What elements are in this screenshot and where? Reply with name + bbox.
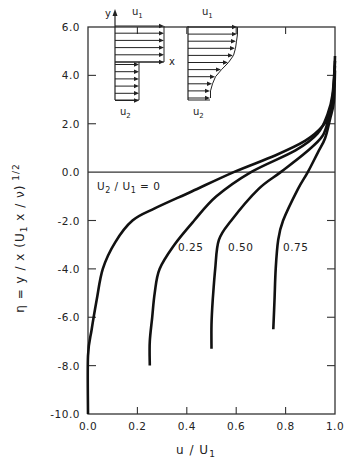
x-tick-label: 0.4: [178, 420, 196, 432]
y-axis-label: η = y / x (U1 x / ν) 1/2: [11, 163, 29, 313]
inset1-upper-arrow: [115, 45, 164, 49]
inset1-upper-arrow: [115, 38, 164, 42]
y-tick-label: -2.0: [58, 215, 81, 227]
inset-mixed-profile: u1 u2: [188, 6, 238, 120]
legend-end: = 0: [136, 180, 160, 192]
inset1-u2-label: u2: [120, 106, 131, 120]
arrowhead-icon: [159, 45, 164, 49]
curve-u2-u1-0.25: [150, 61, 335, 366]
inset2-arrow: [188, 75, 215, 79]
arrowhead-icon: [159, 38, 164, 42]
curve-label-0.75: 0.75: [283, 241, 308, 253]
plot-border: [88, 27, 335, 414]
curve-label-0.50: 0.50: [228, 241, 253, 253]
curve-label-0.25: 0.25: [178, 241, 203, 253]
plot-frame: [88, 27, 335, 414]
inset-step-profile: y u1 x u2: [105, 6, 175, 120]
inset2-arrow: [188, 67, 221, 71]
y-tick-label: -10.0: [50, 408, 80, 420]
y-axis-label-sup: 1/2: [11, 163, 21, 184]
inset1-u2-sub: 2: [126, 112, 130, 120]
x-tick-label: 0.0: [79, 420, 97, 432]
y-tick-labels: 6.04.02.00.0-2.0-4.0-6.0-8.0-10.0: [50, 21, 80, 420]
inset2-u2-label: u2: [193, 106, 204, 120]
inset2-arrow: [188, 82, 212, 86]
x-tick-label: 0.8: [276, 420, 294, 432]
legend-mid: / U: [111, 180, 131, 192]
mixing-layer-velocity-chart: 0.00.20.40.60.81.0 6.04.02.00.0-2.0-4.0-…: [0, 0, 354, 470]
inset1-u1-label: u1: [132, 6, 143, 20]
inset2-arrow: [188, 32, 237, 36]
arrowhead-icon: [231, 39, 236, 43]
inset1-upper-arrow: [115, 53, 164, 57]
arrowhead-icon: [134, 62, 139, 66]
legend-label-u2-u1-0: U2 / U1 = 0: [97, 180, 160, 195]
inset1-lower-arrow: [115, 91, 139, 95]
inset2-u2-sub: 2: [199, 112, 203, 120]
arrowhead-icon: [159, 53, 164, 57]
inset1-lower-arrow: [115, 98, 139, 102]
y-tick-label: 2.0: [62, 118, 80, 130]
inset1-lower-arrow: [115, 62, 139, 66]
inset2-arrows: [188, 25, 237, 100]
inset1-upper-arrow: [115, 31, 164, 35]
y-tick-label: 6.0: [62, 21, 80, 33]
inset1-y-arrowhead-icon: [113, 9, 118, 16]
arrowhead-icon: [159, 60, 164, 64]
arrowhead-icon: [134, 70, 139, 74]
inset2-arrow: [188, 39, 236, 43]
inset2-u1-label: u1: [202, 6, 213, 20]
inset1-lower-arrow: [115, 77, 139, 81]
legend-u: U: [97, 180, 105, 192]
arrowhead-icon: [159, 31, 164, 35]
x-tick-labels: 0.00.20.40.60.81.0: [79, 420, 344, 432]
inset2-arrow: [188, 60, 228, 64]
y-tick-label: -6.0: [58, 311, 81, 323]
y-tick-label: 0.0: [62, 166, 80, 178]
inset1-lower-arrow: [115, 70, 139, 74]
arrowhead-icon: [207, 82, 212, 86]
x-axis-label-main: u / U: [176, 443, 209, 457]
inset2-arrow: [188, 25, 237, 29]
y-tick-label: -8.0: [58, 360, 81, 372]
arrowhead-icon: [230, 46, 235, 50]
x-axis-label-sub: 1: [209, 449, 216, 459]
inset2-arrow: [188, 46, 235, 50]
x-tick-label: 0.6: [227, 420, 245, 432]
arrowhead-icon: [134, 77, 139, 81]
curve-u2-u1-0.75: [273, 71, 335, 330]
arrowhead-icon: [134, 91, 139, 95]
inset1-x-label: x: [169, 56, 175, 67]
inset1-u1-sub: 1: [138, 12, 142, 20]
inset2-arrow: [188, 89, 210, 93]
y-axis-label-a: η = y / x (U: [13, 232, 27, 312]
y-tick-label: -4.0: [58, 263, 81, 275]
axis-ticks: [88, 27, 335, 414]
inset2-u1-sub: 1: [208, 12, 212, 20]
y-axis-label-sub: 1: [19, 226, 29, 233]
inset1-lower-arrow: [115, 84, 139, 88]
x-tick-label: 0.2: [128, 420, 146, 432]
arrowhead-icon: [134, 84, 139, 88]
y-tick-label: 4.0: [62, 69, 80, 81]
y-axis-label-b: x / ν): [13, 185, 27, 226]
inset1-y-label: y: [105, 8, 111, 19]
arrowhead-icon: [134, 98, 139, 102]
x-axis-label: u / U1: [176, 443, 216, 459]
arrowhead-icon: [210, 75, 215, 79]
x-tick-label: 1.0: [326, 420, 344, 432]
inset2-arrow: [188, 53, 233, 57]
arrowhead-icon: [205, 89, 210, 93]
